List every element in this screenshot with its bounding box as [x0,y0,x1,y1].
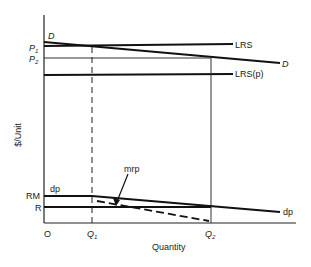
dp-curve [44,196,280,212]
x-axis-title: Quantity [152,242,186,252]
mrp-label: mrp [124,164,140,174]
dp-left-label: dp [50,184,60,194]
rm-label: RM [26,191,40,201]
lrsp-line [44,74,233,75]
dp-right-label: dp [283,207,293,217]
d-right-label: D [282,59,289,69]
lrsp-label: LRS(p) [235,69,264,79]
p2-label: P2 [29,54,39,65]
origin-label: O [44,229,51,239]
y-axis-title: $/Unit [13,123,23,147]
q1-label: Q1 [87,229,97,240]
q2-label: Q2 [205,229,216,240]
d-top-label: D [48,31,55,41]
p1-label: P1 [29,43,38,54]
economics-diagram: D D LRS LRS(p) P1 P2 RM R dp dp mrp O Q1… [0,0,311,267]
r-label: R [35,203,42,213]
lrs-label: LRS [235,40,253,50]
